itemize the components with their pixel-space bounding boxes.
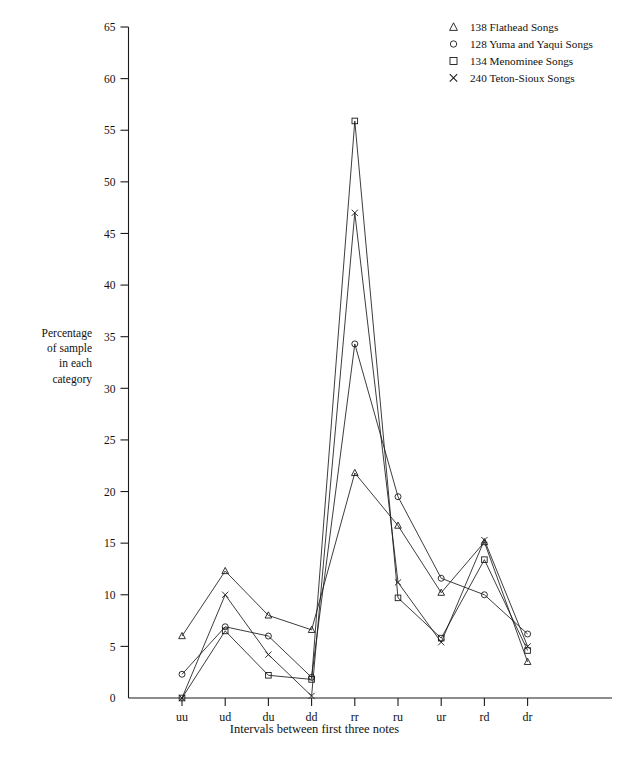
series-triangle <box>179 469 531 664</box>
y-axis-label-line-1: Percentage <box>6 326 92 341</box>
y-axis-label-line-3: in each <box>6 356 92 371</box>
x-axis-label: Intervals between first three notes <box>0 722 629 737</box>
legend-marker-icon-3 <box>448 72 470 83</box>
y-axis-label: Percentage of sample in each category <box>6 326 92 387</box>
legend-item-0: 138 Flathead Songs <box>448 18 628 35</box>
chart-legend: 138 Flathead Songs128 Yuma and Yaqui Son… <box>448 18 628 86</box>
y-tick-label-15: 15 <box>104 537 116 549</box>
y-tick-label-65: 65 <box>104 21 116 33</box>
triangle-icon <box>448 21 459 32</box>
legend-item-1: 128 Yuma and Yaqui Songs <box>448 35 628 52</box>
y-axis-label-line-2: of sample <box>6 341 92 356</box>
y-tick-label-25: 25 <box>104 434 116 446</box>
legend-label-3: 240 Teton-Sioux Songs <box>470 72 575 84</box>
legend-label-1: 128 Yuma and Yaqui Songs <box>470 38 593 50</box>
series-square <box>179 118 530 701</box>
y-tick-label-10: 10 <box>104 589 116 601</box>
series-cross <box>179 210 531 701</box>
series-line-cross <box>182 213 528 698</box>
y-axis-label-line-4: category <box>6 372 92 387</box>
legend-marker-icon-2 <box>448 55 470 66</box>
data-point-marker-cross <box>438 639 444 645</box>
y-tick-label-50: 50 <box>104 176 116 188</box>
y-tick-label-35: 35 <box>104 331 116 343</box>
y-tick-label-40: 40 <box>104 279 116 291</box>
y-tick-label-0: 0 <box>110 692 116 704</box>
series-line-triangle <box>182 473 528 662</box>
series-circle <box>179 341 531 680</box>
data-point-marker-cross <box>222 592 228 598</box>
y-tick-label-20: 20 <box>104 486 116 498</box>
y-tick-label-5: 5 <box>110 641 116 653</box>
line-chart-plot: uuudduddrrruurrddr 051015202530354045505… <box>0 0 629 758</box>
cross-icon <box>448 72 459 83</box>
legend-label-0: 138 Flathead Songs <box>470 21 558 33</box>
legend-item-3: 240 Teton-Sioux Songs <box>448 69 628 86</box>
y-tick-label-55: 55 <box>104 124 116 136</box>
series-line-circle <box>182 344 528 677</box>
legend-item-2: 134 Menominee Songs <box>448 52 628 69</box>
legend-marker-icon-1 <box>448 38 470 49</box>
y-tick-label-60: 60 <box>104 73 116 85</box>
chart-series-group <box>179 118 531 701</box>
series-line-square <box>182 121 528 698</box>
legend-marker-icon-0 <box>448 21 470 32</box>
y-tick-labels: 05101520253035404550556065 <box>104 21 116 704</box>
y-tick-label-45: 45 <box>104 228 116 240</box>
data-point-marker-cross <box>265 652 271 658</box>
y-tick-label-30: 30 <box>104 383 116 395</box>
circle-icon <box>448 38 459 49</box>
chart-axes <box>121 27 613 706</box>
square-icon <box>448 55 459 66</box>
chart-figure: uuudduddrrruurrddr 051015202530354045505… <box>0 0 629 758</box>
legend-label-2: 134 Menominee Songs <box>470 55 573 67</box>
